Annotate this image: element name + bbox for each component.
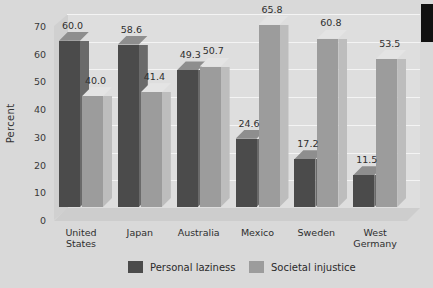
bar-west-germany-personal-laziness — [353, 175, 374, 207]
legend-label: Personal laziness — [150, 262, 236, 273]
legend-label: Societal injustice — [271, 262, 356, 273]
value-label-sweden-personal-laziness: 17.2 — [297, 139, 318, 149]
bar-front-face — [59, 41, 80, 207]
bar-front-face — [317, 39, 338, 208]
category-label-united-states: UnitedStates — [47, 227, 115, 249]
bar-front-face — [118, 45, 139, 207]
category-label-line: West — [341, 227, 409, 238]
chart-legend: Personal lazinessSocietal injustice — [0, 259, 433, 279]
y-axis-tick-labels: 706050403020100 — [14, 0, 46, 288]
category-label-line: Mexico — [224, 227, 292, 238]
value-label-australia-personal-laziness: 49.3 — [180, 50, 201, 60]
bar-front-face — [353, 175, 374, 207]
category-label-line: Germany — [341, 238, 409, 249]
legend-swatch-icon — [249, 261, 264, 273]
bar-united-states-personal-laziness — [59, 41, 80, 207]
y-tick-0: 0 — [16, 216, 46, 225]
bar-mexico-societal-injustice — [259, 25, 280, 207]
category-label-japan: Japan — [106, 227, 174, 238]
y-tick-30: 30 — [16, 133, 46, 142]
bar-australia-personal-laziness — [177, 70, 198, 207]
category-label-west-germany: WestGermany — [341, 227, 409, 249]
bar-side-face — [162, 92, 171, 207]
y-tick-20: 20 — [16, 161, 46, 170]
bar-japan-personal-laziness — [118, 45, 139, 207]
bar-japan-societal-injustice — [141, 92, 162, 207]
category-label-line: Australia — [165, 227, 233, 238]
bar-front-face — [177, 70, 198, 207]
legend-item-societal-injustice[interactable]: Societal injustice — [249, 261, 356, 273]
y-tick-50: 50 — [16, 77, 46, 86]
bar-west-germany-societal-injustice — [376, 59, 397, 207]
value-label-west-germany-societal-injustice: 53.5 — [379, 39, 400, 49]
bar-side-face — [103, 96, 112, 207]
value-label-west-germany-personal-laziness: 11.5 — [356, 155, 377, 165]
y-tick-10: 10 — [16, 188, 46, 197]
value-label-australia-societal-injustice: 50.7 — [203, 46, 224, 56]
plot-area — [54, 14, 420, 220]
y-tick-70: 70 — [16, 22, 46, 31]
bar-front-face — [259, 25, 280, 207]
category-label-mexico: Mexico — [224, 227, 292, 238]
scan-artifact — [421, 4, 433, 42]
category-label-line: States — [47, 238, 115, 249]
bar-australia-societal-injustice — [200, 67, 221, 208]
category-label-australia: Australia — [165, 227, 233, 238]
bar-front-face — [200, 67, 221, 208]
category-label-line: United — [47, 227, 115, 238]
category-label-sweden: Sweden — [282, 227, 350, 238]
bar-front-face — [376, 59, 397, 207]
bar-front-face — [236, 139, 257, 207]
y-tick-60: 60 — [16, 50, 46, 59]
legend-swatch-icon — [128, 261, 143, 273]
bar-united-states-societal-injustice — [82, 96, 103, 207]
bar-sweden-societal-injustice — [317, 39, 338, 208]
bar-side-face — [221, 67, 230, 208]
bar-sweden-personal-laziness — [294, 159, 315, 207]
legend-item-personal-laziness[interactable]: Personal laziness — [128, 261, 236, 273]
bar-chart: Percent 706050403020100 60.040.058.641.4… — [0, 0, 433, 288]
value-label-mexico-societal-injustice: 65.8 — [262, 5, 283, 15]
bar-side-face — [397, 59, 406, 207]
bar-mexico-personal-laziness — [236, 139, 257, 207]
category-label-line: Sweden — [282, 227, 350, 238]
value-label-mexico-personal-laziness: 24.6 — [239, 119, 260, 129]
y-tick-40: 40 — [16, 105, 46, 114]
plot-floor — [54, 208, 420, 221]
value-label-sweden-societal-injustice: 60.8 — [320, 18, 341, 28]
gridline-70 — [67, 14, 420, 15]
bar-side-face — [338, 39, 347, 208]
bar-side-face — [280, 25, 289, 207]
bar-front-face — [294, 159, 315, 207]
category-label-line: Japan — [106, 227, 174, 238]
value-label-japan-personal-laziness: 58.6 — [121, 25, 142, 35]
bar-front-face — [141, 92, 162, 207]
value-label-united-states-personal-laziness: 60.0 — [62, 21, 83, 31]
value-label-united-states-societal-injustice: 40.0 — [85, 76, 106, 86]
bar-front-face — [82, 96, 103, 207]
value-label-japan-societal-injustice: 41.4 — [144, 72, 165, 82]
